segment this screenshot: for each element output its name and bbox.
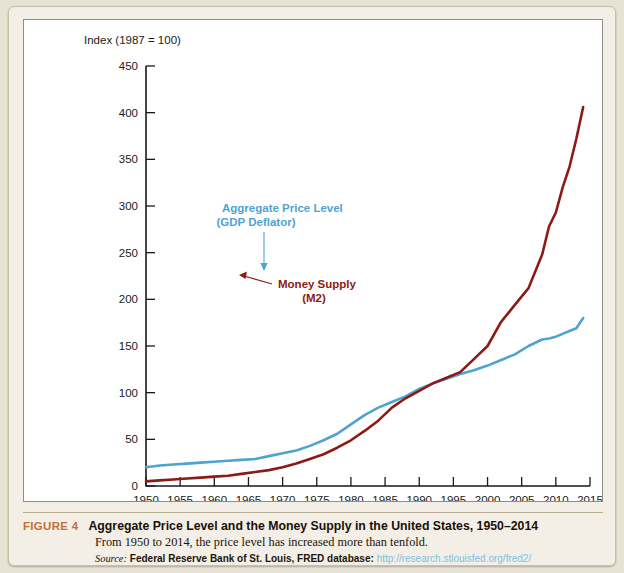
figure-caption: FIGURE 4 Aggregate Price Level and the M… [23,512,603,565]
x-axis-tick-label: 1970 [270,494,296,501]
y-axis-tick-label: 150 [119,340,138,352]
x-axis-tick-label: 2015 [577,494,602,501]
annotation-price-level-line2: (GDP Deflator) [216,216,295,228]
x-axis-tick-label: 1955 [167,494,193,501]
figure-title: Aggregate Price Level and the Money Supp… [88,519,538,533]
y-axis-tick-label: 300 [119,200,138,212]
annotation-money-supply-line1: Money Supply [278,278,357,290]
y-axis-tick-label: 400 [119,107,138,119]
annotation-price-level-line1: Aggregate Price Level [222,202,343,214]
source-name: Federal Reserve Bank of St. Louis, FRED … [130,553,374,564]
annotation-money-supply-line2: (M2) [302,292,326,304]
x-axis-tick-label: 1990 [406,494,432,501]
x-axis-tick-label: 1965 [236,494,262,501]
y-axis-title: Index (1987 = 100) [84,34,181,46]
series-line-money-supply [146,107,583,481]
x-axis-tick-label: 2005 [509,494,535,501]
y-axis-tick-label: 100 [119,387,138,399]
series-line-price-level [146,318,583,467]
x-axis-tick-label: 1980 [338,494,364,501]
annotation-money-supply-arrow [244,276,272,284]
y-axis-tick-label: 0 [132,480,138,492]
y-axis-tick-label: 350 [119,153,138,165]
y-axis-tick-label: 450 [119,60,138,72]
figure-source-row: Source: Federal Reserve Bank of St. Loui… [95,553,603,565]
y-axis-tick-label: 200 [119,293,138,305]
annotation-money-supply-arrowhead [239,272,247,280]
x-axis-tick-label: 1995 [441,494,467,501]
source-label: Source: [95,553,127,564]
x-axis-tick-label: 1985 [372,494,398,501]
annotation-price-level-arrowhead [260,263,267,271]
figure-subtitle: From 1950 to 2014, the price level has i… [95,535,603,550]
y-axis-tick-label: 50 [125,433,138,445]
x-axis-tick-label: 2000 [475,494,501,501]
source-url-link[interactable]: http://research.stlouisfed.org/fred2/ [377,553,532,564]
line-chart: Index (1987 = 100) 050100150200250300350… [24,20,602,501]
x-axis-tick-label: 1960 [202,494,228,501]
figure-card: Index (1987 = 100) 050100150200250300350… [8,6,616,566]
chart-axes [146,66,590,486]
x-axis-tick-label: 1950 [133,494,159,501]
figure-number-label: FIGURE 4 [23,520,78,532]
y-axis-tick-label: 250 [119,247,138,259]
caption-divider [23,512,603,513]
x-axis-tick-label: 1975 [304,494,330,501]
chart-plot-panel: Index (1987 = 100) 050100150200250300350… [23,19,603,502]
x-axis-tick-label: 2010 [543,494,569,501]
